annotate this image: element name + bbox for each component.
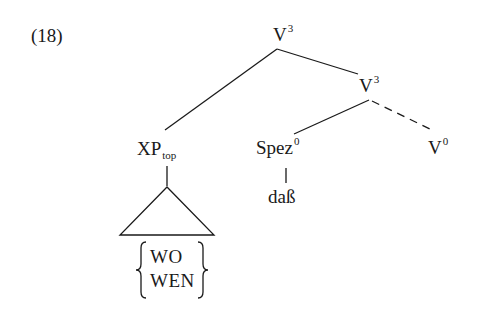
node-xp-top: XPtop (137, 139, 176, 158)
edge-root-to-xp (165, 49, 277, 130)
tree-edges (0, 0, 477, 319)
edge-v3-to-v0-dashed (372, 101, 432, 130)
node-v3-root: V3 (273, 25, 293, 44)
example-number: (18) (31, 26, 63, 45)
left-brace-icon (134, 240, 148, 300)
terminal-dass: daß (268, 187, 295, 206)
edge-root-to-v3 (277, 49, 358, 74)
node-v0: V0 (428, 138, 448, 157)
node-v3-intermediate: V3 (359, 76, 379, 95)
edge-v3-to-spez (294, 100, 369, 134)
right-brace-icon (196, 240, 210, 300)
triangle-abbreviation (120, 187, 214, 235)
alternative-wen: WEN (150, 270, 195, 292)
topic-alternatives-set: WO WEN (130, 240, 206, 300)
node-spez0: Spez0 (256, 138, 299, 157)
alternative-wo: WO (150, 246, 183, 268)
